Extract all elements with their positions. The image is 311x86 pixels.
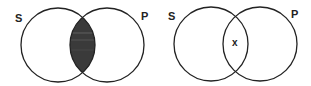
shaded-intersection: [60, 5, 110, 85]
label-p: P: [141, 10, 148, 22]
label-p: P: [291, 8, 298, 20]
intersection-mark-x: x: [232, 37, 238, 48]
venn-right: S P x: [168, 7, 298, 81]
venn-left: S P: [15, 5, 148, 85]
label-s: S: [15, 12, 22, 24]
venn-diagrams-canvas: S P S P x: [0, 0, 311, 86]
label-s: S: [168, 10, 175, 22]
